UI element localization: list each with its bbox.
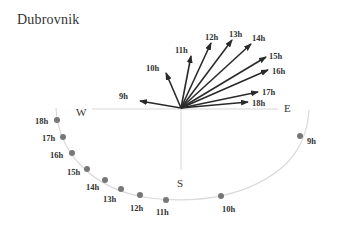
shadow-point-13h — [118, 186, 124, 192]
sun-arrow-17h — [181, 92, 258, 108]
shadow-point-18h — [54, 117, 60, 123]
shadow-point-15h — [84, 166, 90, 172]
shadow-point-label: 12h — [130, 203, 144, 213]
shadow-point-label: 11h — [156, 207, 169, 217]
shadow-point-14h — [102, 177, 108, 183]
sun-arrow-9h — [140, 101, 181, 108]
sun-arrow-label: 11h — [175, 45, 188, 55]
shadow-point-11h — [163, 197, 169, 203]
sun-arrow-label: 18h — [252, 98, 266, 108]
sun-arrow-14h — [181, 44, 251, 108]
sun-arrow-label: 14h — [252, 33, 266, 43]
sun-arrow-10h — [166, 73, 181, 108]
shadow-point-16h — [69, 150, 75, 156]
shadow-point-10h — [218, 193, 224, 199]
shadow-point-label: 15h — [67, 167, 81, 177]
shadow-point-label: 18h — [35, 116, 49, 126]
shadow-point-label: 14h — [86, 182, 100, 192]
south-label: S — [177, 177, 183, 189]
west-label: W — [76, 106, 87, 118]
sun-arrow-label: 16h — [272, 66, 286, 76]
shadow-point-label: 10h — [222, 204, 236, 214]
shadow-point-label: 17h — [42, 133, 56, 143]
sun-arrow-label: 12h — [205, 32, 219, 42]
sun-arrow-label: 13h — [229, 29, 243, 39]
sun-path-diagram: W E S 9h10h11h12h13h14h15h16h17h18h 18h1… — [0, 0, 339, 232]
sun-arrow-label: 15h — [269, 51, 283, 61]
sun-arrow-label: 17h — [262, 87, 276, 97]
east-label: E — [284, 102, 291, 114]
shadow-point-label: 13h — [103, 194, 117, 204]
shadow-points: 18h17h16h15h14h13h12h11h10h9h — [35, 116, 316, 217]
sun-arrow-label: 10h — [146, 63, 160, 73]
sun-arrow-label: 9h — [119, 91, 128, 101]
shadow-point-12h — [137, 192, 143, 198]
sun-direction-arrows: 9h10h11h12h13h14h15h16h17h18h — [119, 29, 286, 108]
shadow-point-label: 9h — [307, 136, 316, 146]
shadow-point-label: 16h — [50, 150, 64, 160]
shadow-point-9h — [297, 133, 303, 139]
sun-arrow-13h — [181, 40, 232, 108]
shadow-point-17h — [60, 134, 66, 140]
